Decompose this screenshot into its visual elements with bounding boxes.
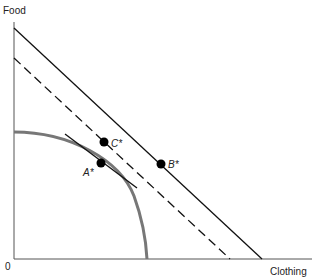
ppf-diagram: A* C* B* Food 0 Clothing — [0, 0, 312, 280]
point-c-label: C* — [111, 138, 123, 149]
point-b — [157, 160, 166, 169]
point-a-label: A* — [82, 167, 95, 178]
y-axis-label: Food — [3, 5, 26, 16]
outer-solid-line — [14, 28, 262, 259]
x-axis-label: Clothing — [270, 266, 307, 277]
dashed-line — [14, 58, 230, 259]
ppf-curve — [14, 132, 147, 259]
point-c — [100, 138, 109, 147]
point-a — [97, 159, 106, 168]
origin-label: 0 — [5, 261, 11, 272]
point-b-label: B* — [168, 159, 180, 170]
